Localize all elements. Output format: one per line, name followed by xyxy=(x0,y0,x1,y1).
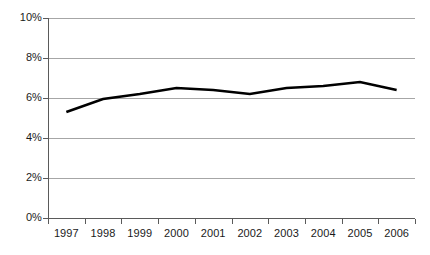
y-axis-tick-label: 6% xyxy=(0,92,42,103)
x-tick xyxy=(158,219,159,224)
x-tick xyxy=(48,219,49,224)
series-line-path xyxy=(66,82,396,112)
x-axis-tick-label: 2005 xyxy=(340,228,380,239)
gridline-6pct xyxy=(48,98,415,99)
x-tick xyxy=(232,219,233,224)
x-axis-tick-label: 2000 xyxy=(156,228,196,239)
x-axis-tick-label: 2002 xyxy=(230,228,270,239)
y-axis-tick-label: 4% xyxy=(0,132,42,143)
gridline-10pct xyxy=(48,18,415,19)
y-axis-line xyxy=(48,18,49,219)
x-tick xyxy=(195,219,196,224)
x-tick xyxy=(305,219,306,224)
x-tick xyxy=(85,219,86,224)
x-axis-tick-label: 2006 xyxy=(377,228,417,239)
y-axis-tick-label: 2% xyxy=(0,172,42,183)
x-tick xyxy=(121,219,122,224)
x-axis-tick-label: 1999 xyxy=(120,228,160,239)
y-axis-tick-label: 8% xyxy=(0,52,42,63)
x-axis-tick-label: 1997 xyxy=(46,228,86,239)
x-axis-tick-label: 2003 xyxy=(267,228,307,239)
x-axis-tick-label: 1998 xyxy=(83,228,123,239)
x-axis-tick-label: 2001 xyxy=(193,228,233,239)
x-tick xyxy=(378,219,379,224)
x-tick xyxy=(415,219,416,224)
gridline-2pct xyxy=(48,178,415,179)
y-axis-tick-label: 10% xyxy=(0,12,42,23)
x-tick xyxy=(268,219,269,224)
x-axis-tick-label: 2004 xyxy=(303,228,343,239)
x-tick xyxy=(342,219,343,224)
y-axis-tick-label: 0% xyxy=(0,212,42,223)
gridline-4pct xyxy=(48,138,415,139)
series-layer xyxy=(0,0,430,255)
gridline-8pct xyxy=(48,58,415,59)
line-chart: 0%2%4%6%8%10% 19971998199920002001200220… xyxy=(0,0,430,255)
